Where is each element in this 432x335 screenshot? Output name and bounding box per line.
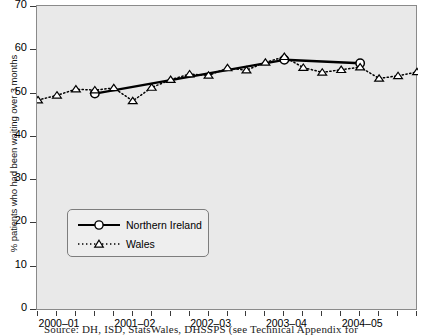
circle-marker-icon	[95, 221, 103, 229]
x-tick-mark	[189, 311, 190, 316]
y-tick-label: 50	[0, 86, 27, 97]
x-tick-mark	[227, 311, 228, 316]
legend-label-northern-ireland: Northern Ireland	[126, 219, 202, 231]
x-tick-mark	[245, 311, 246, 316]
x-tick-mark	[397, 311, 398, 316]
data-point-triangle	[109, 84, 118, 90]
legend-box: Northern Ireland Wales	[67, 209, 209, 257]
x-tick-mark	[416, 311, 417, 316]
series-northern-ireland	[91, 56, 365, 98]
data-point-triangle	[299, 64, 308, 70]
data-point-triangle	[375, 75, 384, 81]
x-tick-mark	[378, 311, 379, 316]
y-tick-label: 60	[0, 42, 27, 53]
x-tick-mark	[321, 311, 322, 316]
x-tick-mark	[264, 311, 265, 316]
y-tick-label: 10	[0, 259, 27, 270]
x-tick-mark	[208, 311, 209, 316]
x-tick-mark	[340, 311, 341, 316]
x-tick-mark	[302, 311, 303, 316]
y-tick-label: 0	[0, 302, 27, 313]
x-tick-mark	[170, 311, 171, 316]
x-tick-mark	[37, 311, 38, 316]
y-tick-label: 40	[0, 129, 27, 140]
x-tick-mark	[113, 311, 114, 316]
y-tick-label: 30	[0, 172, 27, 183]
x-tick-mark	[75, 311, 76, 316]
y-tick-label: 70	[0, 0, 27, 10]
x-tick-mark	[56, 311, 57, 316]
legend-label-wales: Wales	[126, 238, 155, 250]
plot-area	[36, 5, 417, 310]
data-point-triangle	[413, 68, 418, 74]
x-tick-mark	[359, 311, 360, 316]
data-point-triangle	[223, 64, 232, 70]
x-tick-mark	[151, 311, 152, 316]
legend-symbols	[68, 210, 210, 258]
series-canvas	[37, 6, 418, 311]
y-tick-label: 20	[0, 215, 27, 226]
x-tick-mark	[94, 311, 95, 316]
x-tick-mark	[283, 311, 284, 316]
x-tick-mark	[132, 311, 133, 316]
data-point-triangle	[394, 72, 403, 78]
source-caption: Source: DH, ISD, StatsWales, DHSSPS (see…	[44, 323, 358, 335]
